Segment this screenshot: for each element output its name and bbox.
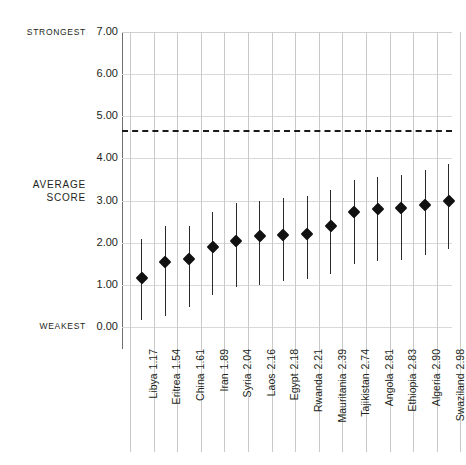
- range-whisker: [401, 175, 402, 259]
- data-point-marker: [301, 227, 314, 240]
- x-label-value: 2.39: [336, 349, 348, 369]
- x-label-country: Iran: [218, 373, 230, 391]
- x-label-country: Libya: [147, 373, 159, 398]
- range-whisker: [165, 226, 166, 316]
- x-tick-label-egypt: Egypt2.18: [288, 349, 300, 400]
- range-whisker: [425, 170, 426, 255]
- x-label-value: 2.74: [359, 349, 371, 369]
- x-label-country: Ethiopia: [406, 373, 418, 411]
- gridline-0: [122, 327, 452, 328]
- axis-annotation-weakest: WEAKEST: [6, 321, 86, 332]
- x-tick-label-libya: Libya1.17: [147, 349, 159, 399]
- x-label-value: 2.04: [241, 349, 253, 369]
- gridline-5: [122, 116, 452, 117]
- data-point-marker: [135, 271, 148, 284]
- x-label-value: 2.21: [312, 349, 324, 369]
- x-tick-label-ethiopia: Ethiopia2.83: [406, 349, 418, 411]
- x-label-value: 2.90: [430, 349, 442, 369]
- y-tick-label-5-00: 5.00: [82, 109, 118, 121]
- data-point-marker: [159, 256, 172, 269]
- x-label-value: 2.83: [406, 349, 418, 369]
- x-label-country: Tajikistan: [359, 373, 371, 416]
- x-axis-tick-labels: Libya1.17Eritrea1.54China1.61Iran1.89Syr…: [122, 349, 452, 465]
- gridline-6: [122, 74, 452, 75]
- x-label-value: 2.16: [265, 349, 277, 369]
- x-label-country: Egypt: [288, 373, 300, 400]
- x-label-value: 2.98: [454, 349, 466, 369]
- data-point-marker: [183, 253, 196, 266]
- data-point-marker: [324, 220, 337, 233]
- x-tick-label-china: China1.61: [194, 349, 206, 401]
- gridline-7: [122, 32, 452, 33]
- data-point-marker: [371, 202, 384, 215]
- range-whisker: [212, 212, 213, 295]
- gridline-3: [122, 201, 452, 202]
- y-tick-label-4-00: 4.00: [82, 151, 118, 163]
- x-tick-label-algeria: Algeria2.90: [430, 349, 442, 406]
- x-tick-label-rwanda: Rwanda2.21: [312, 349, 324, 412]
- x-label-value: 2.18: [288, 349, 300, 369]
- x-tick-label-swaziland: Swaziland2.98: [454, 349, 466, 421]
- y-tick-label-2-00: 2.00: [82, 236, 118, 248]
- data-point-marker: [442, 195, 455, 208]
- x-label-country: Swaziland: [454, 373, 466, 421]
- x-label-value: 1.89: [218, 349, 230, 369]
- y-tick-label-7-00: 7.00: [82, 25, 118, 37]
- range-whisker: [377, 177, 378, 261]
- x-label-country: Syria: [241, 373, 253, 397]
- x-label-value: 1.61: [194, 349, 206, 369]
- x-tick-label-angola: Angola2.81: [383, 349, 395, 406]
- x-label-country: Mauritania: [336, 373, 348, 422]
- y-axis-tick-labels: 7.006.005.004.003.002.001.000.00: [80, 0, 118, 465]
- axis-title-average-score: AVERAGE SCORE: [6, 178, 86, 204]
- gridline-4: [122, 158, 452, 159]
- data-point-marker: [348, 205, 361, 218]
- x-tick-label-tajikistan: Tajikistan2.74: [359, 349, 371, 417]
- gridline-1: [122, 285, 452, 286]
- data-point-marker: [395, 201, 408, 214]
- x-tick-label-laos: Laos2.16: [265, 349, 277, 396]
- range-whisker: [189, 226, 190, 307]
- data-point-marker: [230, 235, 243, 248]
- x-label-country: Laos: [265, 373, 277, 396]
- x-tick-label-eritrea: Eritrea1.54: [170, 349, 182, 404]
- x-label-country: Algeria: [430, 373, 442, 406]
- plot-area: [122, 32, 452, 327]
- data-point-marker: [277, 229, 290, 242]
- x-tick-label-iran: Iran1.89: [218, 349, 230, 392]
- y-tick-label-3-00: 3.00: [82, 194, 118, 206]
- axis-annotation-strongest: STRONGEST: [6, 27, 86, 38]
- y-tick-label-1-00: 1.00: [82, 278, 118, 290]
- x-label-country: Angola: [383, 373, 395, 406]
- x-label-country: China: [194, 373, 206, 400]
- reference-line-dashed: [122, 130, 452, 132]
- x-label-value: 1.54: [170, 349, 182, 369]
- x-tick-label-syria: Syria2.04: [241, 349, 253, 397]
- x-label-country: Rwanda: [312, 373, 324, 412]
- x-label-value: 1.17: [147, 349, 159, 369]
- gridline-2: [122, 243, 452, 244]
- y-tick-label-6-00: 6.00: [82, 67, 118, 79]
- y-tick-label-0-00: 0.00: [82, 320, 118, 332]
- data-point-marker: [253, 230, 266, 243]
- x-label-country: Eritrea: [170, 373, 182, 404]
- x-tick-label-mauritania: Mauritania2.39: [336, 349, 348, 422]
- range-whisker: [354, 180, 355, 264]
- range-whisker: [259, 201, 260, 284]
- x-label-value: 2.81: [383, 349, 395, 369]
